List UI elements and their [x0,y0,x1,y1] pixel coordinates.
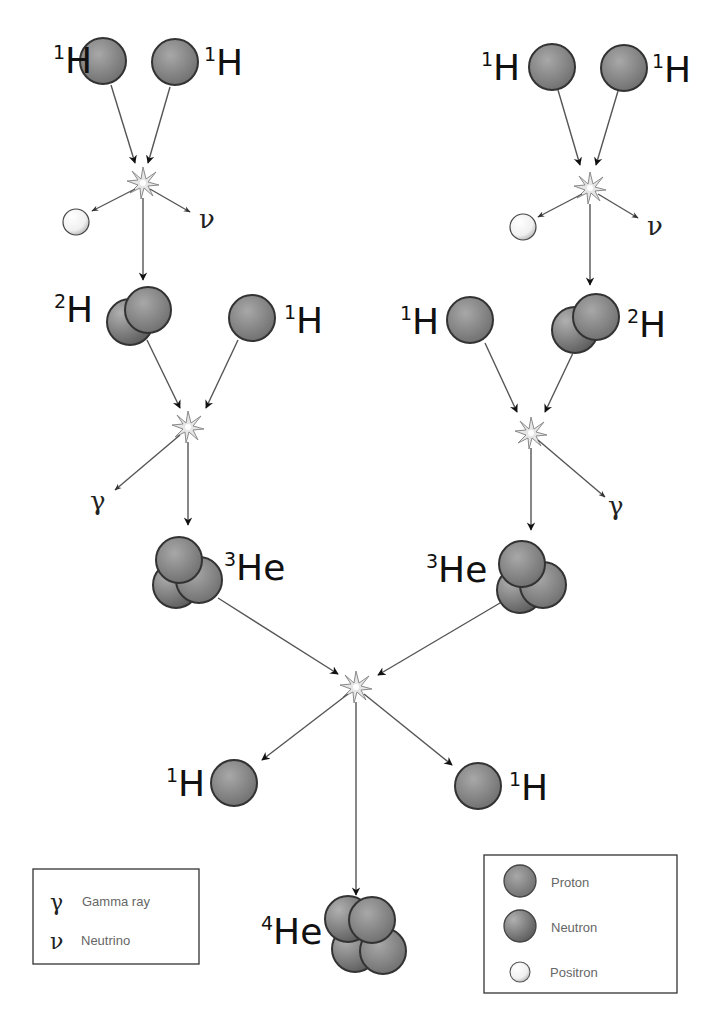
proton-icon [211,760,257,806]
positron-icon [510,962,530,982]
arrow [598,194,638,218]
arrow [115,435,180,490]
nucleus-label-h1: 1H [166,763,205,804]
proton-icon [504,865,536,897]
proton-icon [601,45,647,91]
proton-icon [499,541,545,587]
nucleus-label-he3: 3He [426,549,487,590]
nucleus-label-he4: 4He [261,911,322,952]
arrow [262,694,348,760]
nucleus-label-h1: 1H [284,300,323,341]
gamma-symbol: γ [608,491,624,521]
nucleus-label-h1: 1H [652,49,691,90]
arrow [558,90,580,165]
proton-icon [573,294,619,340]
proton-icon [229,295,275,341]
proton-icon [349,897,395,943]
nucleus-label-h1: 1H [53,40,92,81]
arrow [147,340,180,408]
arrow [364,694,452,765]
legend-label: Gamma ray [82,894,150,909]
positron-icon [510,214,536,240]
fusion-star-icon [340,671,372,703]
proton-icon [455,763,501,809]
proton-icon [447,297,493,343]
neutrino-symbol: ν [50,929,63,954]
arrow [596,91,618,165]
positron-icon [63,209,89,235]
arrow [111,85,135,163]
pp-chain-diagram: 1H 1H ν 2H 1H γ 3He 1H 1H [0,0,719,1020]
left-branch: 1H 1H ν 2H 1H γ 3He [53,38,323,608]
arrow [538,440,605,497]
legend-symbols: γ Gamma ray ν Neutrino [33,869,199,964]
nucleus-label-h1: 1H [509,767,548,808]
legend-label: Neutron [551,920,597,935]
legend-label: Proton [551,875,589,890]
neutrino-symbol: ν [199,204,215,234]
nucleus-label-h2: 2H [627,304,666,345]
neutron-icon [504,910,536,942]
proton-icon [529,44,575,90]
nucleus-label-h1: 1H [400,301,439,342]
legend-label: Positron [550,965,598,980]
proton-icon [125,287,171,333]
neutrino-symbol: ν [647,211,663,241]
proton-icon [152,39,198,85]
arrow [206,340,238,408]
arrow [485,343,517,412]
arrow [148,87,170,163]
gamma-symbol: γ [50,890,63,915]
fusion-star-icon [127,167,159,199]
nucleus-label-h1: 1H [204,42,243,83]
nucleus-label-h1: 1H [481,47,520,88]
legend-particles: Proton Neutron Positron [484,855,677,993]
arrow [378,603,500,675]
arrow [218,598,338,674]
arrow [545,353,573,412]
nucleus-label-h2: 2H [54,289,93,330]
legend-label: Neutrino [81,933,130,948]
right-branch: 1H 1H ν 1H 2H γ 3He [400,44,691,613]
nucleus-label-he3: 3He [224,547,285,588]
fusion-star-icon [574,172,606,204]
gamma-symbol: γ [90,486,106,516]
arrow [538,194,582,217]
proton-icon [156,537,202,583]
arrow [150,189,190,212]
arrow [92,189,135,211]
